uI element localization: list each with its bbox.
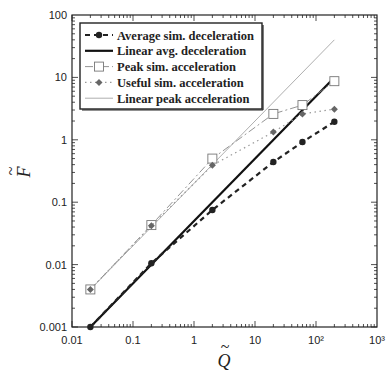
y-tick-label: 0.001 <box>39 321 67 333</box>
x-tick-label: 10 <box>249 334 261 346</box>
legend-label: Useful sim. acceleration <box>117 76 244 90</box>
y-axis-label: F ~ <box>2 166 34 179</box>
legend: Average sim. decelerationLinear avg. dec… <box>80 23 263 110</box>
legend-label: Peak sim. acceleration <box>117 60 236 74</box>
x-tick-label: 1 <box>191 334 197 346</box>
y-tick-label: 1 <box>61 134 67 146</box>
legend-label: Linear avg. deceleration <box>117 44 246 58</box>
y-tick-label: 100 <box>49 9 67 21</box>
legend-label: Linear peak acceleration <box>117 92 249 106</box>
svg-text:~: ~ <box>2 166 19 175</box>
x-axis-label: Q ~ <box>218 338 231 371</box>
y-tick-label: 0.1 <box>52 196 67 208</box>
series-linear-avg-deceleration <box>90 77 334 327</box>
x-tick-label: 10² <box>308 334 324 346</box>
x-tick-label: 0.01 <box>61 334 82 346</box>
y-tick-label: 0.01 <box>46 259 67 271</box>
x-tick-label: 0.1 <box>125 334 140 346</box>
svg-text:~: ~ <box>221 338 230 355</box>
y-tick-label: 10 <box>55 71 67 83</box>
x-tick-label: 10³ <box>369 334 385 346</box>
y-tick-labels: 0.0010.010.1110100 <box>39 9 67 333</box>
series-useful-sim-acceleration <box>87 106 338 293</box>
chart: 0.010.111010²10³0.0010.010.1110100 Avera… <box>0 0 392 379</box>
series-average-sim-deceleration <box>87 119 337 331</box>
legend-label: Average sim. deceleration <box>117 29 254 43</box>
